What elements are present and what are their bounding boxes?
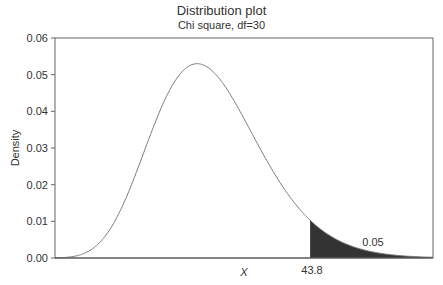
y-tick-label: 0.04 — [27, 105, 48, 117]
y-tick-label: 0.00 — [27, 252, 48, 264]
y-axis-ticks: 0.000.010.020.030.040.050.06 — [27, 32, 55, 264]
chart-canvas: 0.000.010.020.030.040.050.06 Density X 4… — [0, 0, 443, 285]
plot-frame — [55, 38, 433, 258]
x-tick-critical-value: 43.8 — [301, 264, 322, 276]
x-axis-label: X — [239, 266, 248, 278]
y-tick-label: 0.06 — [27, 32, 48, 44]
y-tick-label: 0.01 — [27, 215, 48, 227]
density-curve — [55, 64, 433, 258]
y-axis-label: Density — [9, 129, 21, 166]
tail-area-label: 0.05 — [362, 236, 383, 248]
y-tick-label: 0.05 — [27, 69, 48, 81]
y-tick-label: 0.03 — [27, 142, 48, 154]
y-tick-label: 0.02 — [27, 179, 48, 191]
